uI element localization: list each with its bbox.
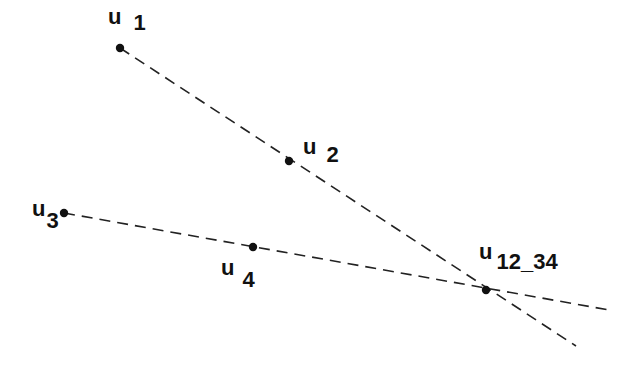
point-u2-dot-icon [285,157,293,165]
label-base: u [303,134,316,159]
point-u12_34-dot-icon [482,286,490,294]
intersection-diagram [0,0,643,370]
label-base: u [479,239,492,264]
label-u4: u4 [221,257,255,279]
label-subscript: 3 [46,208,58,233]
label-subscript: 4 [242,267,254,292]
label-u3: u3 [32,198,59,220]
label-base: u [32,196,45,221]
label-u12_34: u12_34 [479,241,558,263]
point-u4-dot-icon [249,243,257,251]
label-subscript: 2 [326,142,338,167]
label-base: u [108,4,121,29]
label-subscript: 1 [133,10,145,35]
dashed-lines [64,48,609,346]
label-subscript: 12_34 [496,249,557,274]
point-markers [60,44,490,294]
point-u1-dot-icon [116,44,124,52]
label-u1: u1 [108,6,146,28]
label-base: u [221,255,234,280]
label-u2: u2 [303,136,339,158]
line-u1-u2 [120,48,576,346]
point-u3-dot-icon [60,209,68,217]
